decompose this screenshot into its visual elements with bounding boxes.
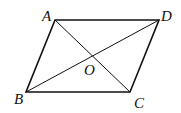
parallelogram-diagram: A D B C O xyxy=(0,0,181,113)
label-d: D xyxy=(160,8,172,24)
diagonal-bd xyxy=(26,20,159,92)
label-o: O xyxy=(84,62,95,78)
label-b: B xyxy=(14,91,23,107)
label-c: C xyxy=(134,95,145,111)
label-a: A xyxy=(41,8,52,24)
